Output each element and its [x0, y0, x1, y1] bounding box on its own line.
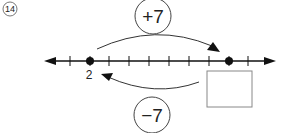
- start-point-label: 2: [86, 68, 93, 82]
- end-point-dot: [225, 57, 233, 65]
- problem-number: 14: [5, 4, 15, 14]
- forward-arrowhead-icon: [207, 42, 220, 52]
- right-arrowhead-icon: [264, 57, 276, 65]
- backward-arc: [108, 77, 199, 89]
- number-line-diagram: 14 2 +7 −7: [0, 0, 283, 133]
- answer-box[interactable]: [207, 71, 252, 107]
- start-point-dot: [86, 57, 94, 65]
- left-arrowhead-icon: [44, 57, 56, 65]
- backward-arrowhead-icon: [101, 73, 113, 81]
- forward-operation-label: +7: [142, 6, 164, 27]
- backward-operation-label: −7: [141, 105, 163, 126]
- forward-arc: [97, 35, 212, 49]
